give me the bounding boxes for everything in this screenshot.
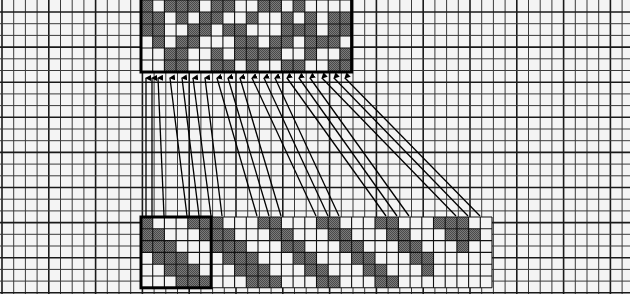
dark-cell xyxy=(317,264,329,276)
light-cell xyxy=(293,229,305,241)
dark-cell xyxy=(164,0,176,12)
light-cell xyxy=(317,252,329,264)
dark-cell xyxy=(281,24,293,36)
light-cell xyxy=(211,36,223,48)
light-cell xyxy=(410,276,422,288)
light-cell xyxy=(445,264,457,276)
light-cell xyxy=(293,12,305,24)
light-cell xyxy=(141,264,153,276)
light-cell xyxy=(363,217,375,229)
mapping-arrow xyxy=(287,78,386,216)
dark-cell xyxy=(176,60,188,72)
light-cell xyxy=(445,252,457,264)
dark-cell xyxy=(293,24,305,36)
mapping-arrow xyxy=(158,78,164,216)
light-cell xyxy=(188,12,200,24)
dark-cell xyxy=(235,24,247,36)
light-cell xyxy=(363,229,375,241)
dark-cell xyxy=(176,276,188,288)
dark-cell xyxy=(340,229,352,241)
light-cell xyxy=(281,217,293,229)
dark-cell xyxy=(211,48,223,60)
light-cell xyxy=(469,241,481,253)
dark-cell xyxy=(363,264,375,276)
dark-cell xyxy=(305,36,317,48)
dark-cell xyxy=(223,252,235,264)
light-cell xyxy=(141,252,153,264)
light-cell xyxy=(340,264,352,276)
light-cell xyxy=(340,36,352,48)
dark-cell xyxy=(176,264,188,276)
dark-cell xyxy=(200,24,212,36)
dark-cell xyxy=(328,12,340,24)
light-cell xyxy=(293,276,305,288)
light-cell xyxy=(235,12,247,24)
light-cell xyxy=(305,217,317,229)
light-cell xyxy=(235,60,247,72)
light-cell xyxy=(223,12,235,24)
dark-cell xyxy=(305,264,317,276)
dark-cell xyxy=(246,60,258,72)
diagram-svg xyxy=(0,0,630,294)
dark-cell xyxy=(176,252,188,264)
dark-cell xyxy=(293,241,305,253)
dark-cell xyxy=(305,24,317,36)
dark-cell xyxy=(246,276,258,288)
dark-cell xyxy=(141,24,153,36)
mapping-arrows xyxy=(146,78,480,216)
dark-cell xyxy=(317,276,329,288)
dark-cell xyxy=(200,12,212,24)
light-cell xyxy=(281,0,293,12)
mapping-arrow xyxy=(217,78,257,216)
dark-cell xyxy=(270,229,282,241)
dark-cell xyxy=(445,217,457,229)
light-cell xyxy=(480,264,492,276)
light-cell xyxy=(153,276,165,288)
dark-cell xyxy=(293,0,305,12)
light-cell xyxy=(352,217,364,229)
dark-cell xyxy=(235,264,247,276)
dark-cell xyxy=(457,217,469,229)
light-cell xyxy=(258,60,270,72)
weave-diagram xyxy=(0,0,630,294)
dark-cell xyxy=(352,252,364,264)
light-cell xyxy=(352,264,364,276)
dark-cell xyxy=(352,241,364,253)
light-cell xyxy=(398,217,410,229)
dark-cell xyxy=(328,217,340,229)
dark-cell xyxy=(305,48,317,60)
dark-cell xyxy=(141,241,153,253)
dark-cell xyxy=(200,229,212,241)
dark-cell xyxy=(328,60,340,72)
dark-cell xyxy=(235,252,247,264)
dark-cell xyxy=(422,264,434,276)
dark-cell xyxy=(457,229,469,241)
light-cell xyxy=(480,276,492,288)
dark-cell xyxy=(340,24,352,36)
light-cell xyxy=(235,0,247,12)
dark-cell xyxy=(328,229,340,241)
light-cell xyxy=(281,48,293,60)
dark-cell xyxy=(246,36,258,48)
light-cell xyxy=(422,229,434,241)
light-cell xyxy=(258,36,270,48)
light-cell xyxy=(176,217,188,229)
light-cell xyxy=(293,36,305,48)
light-cell xyxy=(200,36,212,48)
dark-cell xyxy=(410,241,422,253)
light-cell xyxy=(480,252,492,264)
light-cell xyxy=(340,0,352,12)
dark-cell xyxy=(188,264,200,276)
dark-cell xyxy=(317,217,329,229)
light-cell xyxy=(211,24,223,36)
light-cell xyxy=(141,60,153,72)
light-cell xyxy=(305,60,317,72)
light-cell xyxy=(293,48,305,60)
dark-cell xyxy=(188,0,200,12)
light-cell xyxy=(469,252,481,264)
dark-cell xyxy=(434,217,446,229)
dark-cell xyxy=(387,229,399,241)
light-cell xyxy=(410,229,422,241)
light-cell xyxy=(141,36,153,48)
light-cell xyxy=(153,60,165,72)
